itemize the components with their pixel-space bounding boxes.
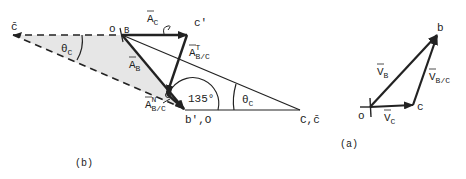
label-theta-C-right: θC [242, 94, 254, 108]
label-c-prime: c' [194, 17, 207, 29]
label-135: 135° [188, 93, 214, 105]
label-V-BC: VB/C [429, 71, 450, 85]
label-A-C: AC [147, 13, 159, 27]
caption-a: (a) [340, 139, 358, 150]
label-V-C: VC [384, 112, 396, 126]
A-C-pointer [164, 26, 171, 34]
label-o: o [109, 23, 116, 35]
label-C-cbar: C,c̄ [300, 114, 320, 126]
label-A-BC-T: ATB/C [189, 43, 210, 61]
figure-a: o b c VB VB/C VC (a) [340, 22, 450, 150]
figure-b: c̄ o B AC c' ATB/C AB θC ANB/C 135° b',O… [11, 11, 320, 169]
label-b-prime-O: b',O [185, 114, 212, 126]
label-V-B: VB [377, 66, 389, 80]
label-B: B [124, 26, 130, 36]
diagram-canvas: c̄ o B AC c' ATB/C AB θC ANB/C 135° b',O… [0, 0, 466, 179]
vector-A-BC-T [167, 35, 187, 94]
label-c-a: c [417, 101, 424, 113]
vector-V-C [370, 105, 413, 107]
caption-b: (b) [75, 158, 93, 169]
label-o-a: o [358, 110, 365, 122]
label-cbar-left: c̄ [11, 21, 18, 33]
theta-arc-right [233, 84, 236, 110]
label-b-a: b [437, 22, 444, 34]
